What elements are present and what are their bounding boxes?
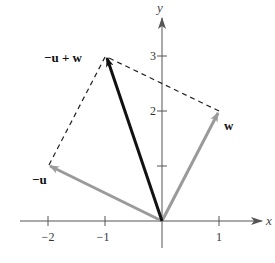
label-neg-u: −u [32,172,47,187]
vector-diagram: x −2 −1 1 y 2 3 −u + w w −u [0,0,275,263]
x-tick-label-neg2: −2 [42,230,55,244]
label-w: w [224,118,234,133]
label-neg-u-plus-w: −u + w [44,50,83,65]
x-axis: x −2 −1 1 [20,213,272,244]
x-axis-label: x [265,213,272,228]
dashed-line-w-to-sum [107,57,219,111]
x-tick-label-1: 1 [216,230,222,244]
y-axis-label: y [155,0,163,15]
x-tick-label-neg1: −1 [97,230,110,244]
y-tick-label-3: 3 [150,49,156,63]
y-tick-label-2: 2 [150,104,156,118]
dashed-line-neg-u-to-sum [49,57,105,165]
vector-w [162,113,218,221]
